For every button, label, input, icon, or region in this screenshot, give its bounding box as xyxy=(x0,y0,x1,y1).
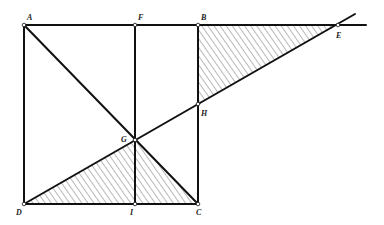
label-i: I xyxy=(129,208,134,217)
point-i xyxy=(133,202,137,206)
point-c xyxy=(196,202,200,206)
label-h: H xyxy=(200,109,208,118)
label-e: E xyxy=(335,31,341,40)
label-d: D xyxy=(15,208,22,217)
point-f xyxy=(133,23,137,27)
label-b: B xyxy=(200,13,207,22)
line-de xyxy=(24,14,355,204)
point-g xyxy=(133,138,137,142)
label-a: A xyxy=(26,13,33,22)
point-b xyxy=(196,23,200,27)
geometry-diagram: A F B E H G D I C xyxy=(0,0,384,225)
point-e xyxy=(336,23,340,27)
point-d xyxy=(22,202,26,206)
label-g: G xyxy=(121,135,127,144)
point-h xyxy=(196,102,200,106)
point-a xyxy=(22,23,26,27)
label-c: C xyxy=(196,208,202,217)
label-f: F xyxy=(137,13,144,22)
shaded-triangle-dgc xyxy=(24,140,198,204)
